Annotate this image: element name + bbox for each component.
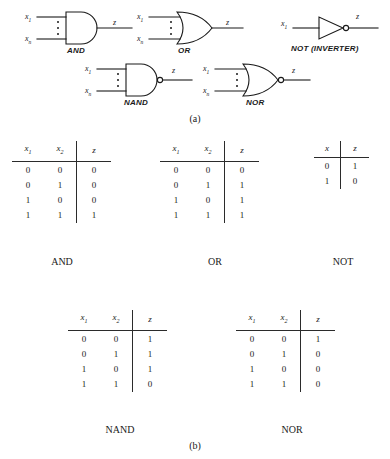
truth-table-and: x1 x2 z 0 0 0 0 1 0 1 0 0 1 1 — [12, 141, 111, 223]
cell-x1: 0 — [236, 332, 268, 347]
or-gate-label: OR — [178, 46, 190, 55]
cell-z: 1 — [133, 332, 168, 347]
cell-x2: 1 — [44, 178, 77, 193]
cell-z: 0 — [133, 377, 168, 392]
header-z: z — [77, 141, 112, 161]
table-row: 0 0 0 — [160, 163, 259, 178]
header-x1: x1 — [12, 141, 44, 161]
header-x2: x2 — [192, 141, 225, 161]
truth-table-not-title: NOT — [310, 256, 376, 267]
table-row: 0 0 0 — [12, 163, 111, 178]
cell-x1: 1 — [160, 193, 192, 208]
cell-x2: 0 — [192, 163, 225, 178]
ellipsis-dots — [236, 73, 238, 87]
cell-x1: 1 — [68, 377, 100, 392]
nand-output-label-z: z — [172, 66, 175, 75]
cell-z: 0 — [301, 347, 336, 362]
table-row: 1 0 1 — [160, 193, 259, 208]
table-row: 1 0 — [314, 174, 369, 189]
nor-output-label-z: z — [292, 66, 295, 75]
caption-part-a: (a) — [175, 113, 215, 124]
caption-part-b: (b) — [175, 440, 215, 451]
header-x: x — [314, 141, 341, 158]
and-gate-label: AND — [67, 46, 85, 55]
cell-x1: 0 — [68, 332, 100, 347]
cell-x2: 1 — [44, 208, 77, 223]
header-z: z — [341, 141, 370, 158]
truth-table-or: x1 x2 z 0 0 0 0 1 1 1 0 1 1 1 — [160, 141, 259, 223]
cell-z: 0 — [225, 163, 260, 178]
cell-x1: 0 — [12, 178, 44, 193]
truth-table-and-title: AND — [22, 256, 102, 267]
cell-z: 1 — [77, 208, 112, 223]
cell-x2: 0 — [100, 362, 133, 377]
cell-x1: 1 — [12, 208, 44, 223]
table-row: 1 1 1 — [12, 208, 111, 223]
header-z: z — [133, 310, 168, 330]
truth-table-nor: x1 x2 z 0 0 1 0 1 0 1 0 0 1 1 — [236, 310, 335, 392]
table-row: 1 1 1 — [160, 208, 259, 223]
cell-x1: 1 — [236, 377, 268, 392]
cell-z: 0 — [77, 163, 112, 178]
ellipsis-dots — [57, 21, 59, 35]
table-row: 0 1 1 — [68, 347, 167, 362]
not-output-label-z: z — [356, 12, 359, 21]
cell-x1: 0 — [160, 163, 192, 178]
cell-z: 1 — [133, 362, 168, 377]
not-gate-label: NOT (INVERTER) — [291, 44, 359, 53]
cell-x2: 0 — [44, 163, 77, 178]
cell-x1: 1 — [236, 362, 268, 377]
header-z: z — [301, 310, 336, 330]
table-header-row: x1 x2 z — [68, 310, 167, 330]
cell-z: 0 — [77, 178, 112, 193]
header-z: z — [225, 141, 260, 161]
cell-x1: 1 — [68, 362, 100, 377]
cell-x2: 1 — [192, 178, 225, 193]
table-row: 1 0 0 — [12, 193, 111, 208]
or-input-label-x1: x1 — [137, 12, 143, 23]
cell-x2: 0 — [192, 193, 225, 208]
cell-x1: 1 — [160, 208, 192, 223]
truth-table-not: x z 0 1 1 0 — [314, 141, 369, 189]
header-x2: x2 — [268, 310, 301, 330]
cell-x2: 0 — [268, 362, 301, 377]
truth-table-nand-title: NAND — [78, 424, 162, 435]
nor-gate-label: NOR — [246, 98, 264, 107]
cell-x2: 1 — [100, 347, 133, 362]
cell-z: 0 — [341, 174, 370, 189]
and-output-label-z: z — [113, 18, 116, 27]
cell-z: 1 — [301, 332, 336, 347]
cell-z: 1 — [341, 159, 370, 174]
cell-z: 0 — [301, 377, 336, 392]
cell-x1: 0 — [160, 178, 192, 193]
not-input-label-x1: x1 — [281, 19, 287, 30]
header-x2: x2 — [44, 141, 77, 161]
table-row: 0 1 — [314, 159, 369, 174]
table-row: 0 1 0 — [12, 178, 111, 193]
logic-gates-figure: x1 xn z AND x1 xn z OR — [0, 0, 390, 459]
table-row: 0 1 1 — [160, 178, 259, 193]
cell-z: 1 — [225, 193, 260, 208]
cell-x2: 1 — [268, 347, 301, 362]
or-output-label-z: z — [226, 18, 229, 27]
table-row: 1 0 0 — [236, 362, 335, 377]
nand-input-label-xn: xn — [85, 86, 91, 97]
table-row: 1 0 1 — [68, 362, 167, 377]
cell-x2: 0 — [268, 332, 301, 347]
nor-input-label-xn: xn — [203, 86, 209, 97]
cell-x2: 1 — [268, 377, 301, 392]
and-gate-icon — [36, 10, 138, 46]
truth-table-nand: x1 x2 z 0 0 1 0 1 1 1 0 1 1 1 — [68, 310, 167, 392]
table-header-row: x1 x2 z — [236, 310, 335, 330]
cell-x: 0 — [314, 159, 341, 174]
cell-x2: 1 — [100, 377, 133, 392]
header-x1: x1 — [160, 141, 192, 161]
not-gate-icon — [292, 14, 384, 42]
and-input-label-xn: xn — [25, 34, 31, 45]
ellipsis-dots — [117, 73, 119, 87]
cell-z: 1 — [225, 208, 260, 223]
or-gate-icon — [148, 10, 248, 46]
cell-x2: 0 — [100, 332, 133, 347]
nor-input-label-x1: x1 — [203, 64, 209, 75]
nand-gate-icon — [96, 62, 196, 98]
